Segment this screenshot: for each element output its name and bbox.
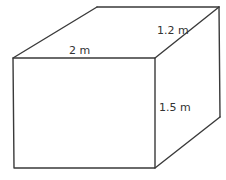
edge-bottom-right-depth	[155, 117, 220, 168]
front-face	[13, 58, 155, 168]
edge-back-right-vertical	[219, 7, 220, 117]
length-label: 2 m	[69, 45, 90, 56]
height-label: 1.5 m	[159, 102, 191, 113]
cuboid-drawing	[0, 0, 226, 180]
depth-label: 1.2 m	[157, 25, 189, 36]
